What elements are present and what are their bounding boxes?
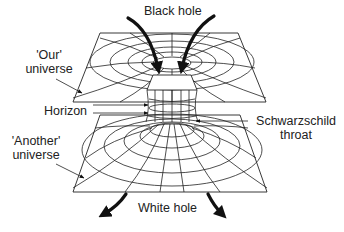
horizon-label: Horizon (44, 104, 87, 118)
schwarzschild-throat-label: Schwarzschild throat (248, 114, 344, 142)
another-universe-label: 'Another' universe (6, 134, 66, 162)
our-universe-label-line2: universe (24, 62, 74, 76)
wormhole-diagram: Black hole 'Our' universe Horizon Schwar… (0, 0, 344, 232)
white-hole-arrow-right (208, 194, 222, 214)
our-universe-label-line1: 'Our' (24, 48, 74, 62)
upper-sheet (73, 33, 266, 102)
our-universe-pointer (56, 79, 82, 93)
white-hole-label: White hole (138, 201, 197, 215)
our-universe-label: 'Our' universe (24, 48, 74, 76)
another-universe-label-line1: 'Another' (6, 134, 66, 148)
throat-label-line1: Schwarzschild (248, 114, 344, 128)
white-hole-arrow-left (104, 194, 126, 214)
throat-label-line2: throat (248, 128, 344, 142)
another-universe-label-line2: universe (6, 148, 66, 162)
black-hole-label: Black hole (144, 4, 202, 18)
lower-sheet (73, 114, 267, 192)
another-universe-pointer (56, 164, 84, 178)
